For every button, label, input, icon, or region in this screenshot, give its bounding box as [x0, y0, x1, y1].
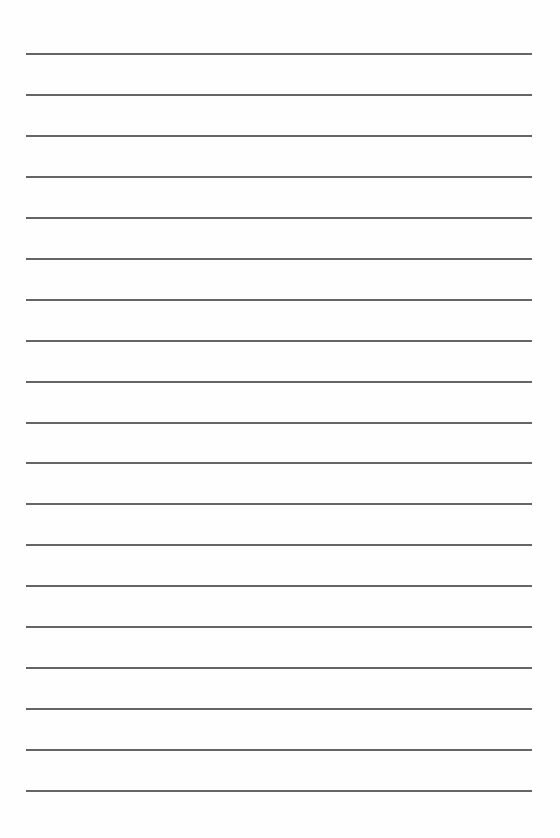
- ruled-line: [26, 749, 532, 751]
- ruled-line: [26, 217, 532, 219]
- ruled-line: [26, 258, 532, 260]
- lined-paper-sheet: [0, 0, 560, 838]
- ruled-line: [26, 381, 532, 383]
- ruled-line: [26, 422, 532, 424]
- ruled-line: [26, 790, 532, 792]
- ruled-line: [26, 544, 532, 546]
- ruled-line: [26, 626, 532, 628]
- ruled-line: [26, 503, 532, 505]
- ruled-line: [26, 135, 532, 137]
- ruled-line: [26, 708, 532, 710]
- ruled-line: [26, 462, 532, 464]
- ruled-line: [26, 340, 532, 342]
- ruled-line: [26, 585, 532, 587]
- ruled-line: [26, 667, 532, 669]
- ruled-line: [26, 176, 532, 178]
- ruled-line: [26, 299, 532, 301]
- ruled-line: [26, 53, 532, 55]
- ruled-line: [26, 94, 532, 96]
